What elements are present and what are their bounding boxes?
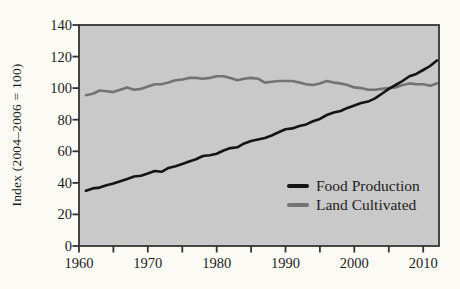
- y-tick-label: 140: [38, 16, 72, 34]
- legend-label-food-production: Food Production: [316, 177, 420, 195]
- x-tick-label: 1970: [124, 254, 172, 272]
- legend: Food Production Land Cultivated: [287, 176, 420, 214]
- y-tick-label: 0: [38, 237, 72, 255]
- x-tick-label: 2010: [399, 254, 447, 272]
- food-production-line-swatch: [287, 184, 309, 188]
- legend-item-land-cultivated: Land Cultivated: [287, 195, 420, 214]
- y-tick-label: 100: [38, 79, 72, 97]
- y-tick-label: 80: [38, 111, 72, 129]
- x-tick-label: 1990: [262, 254, 310, 272]
- legend-item-food-production: Food Production: [287, 176, 420, 195]
- line-chart-figure: Index (2004–2006 = 100) 0204060801001201…: [0, 0, 460, 289]
- y-tick-label: 20: [38, 205, 72, 223]
- y-tick-label: 40: [38, 174, 72, 192]
- x-tick-label: 2000: [330, 254, 378, 272]
- y-tick-label: 60: [38, 142, 72, 160]
- y-tick-label: 120: [38, 48, 72, 66]
- x-tick-label: 1960: [55, 254, 103, 272]
- land-cultivated-line-swatch: [287, 203, 309, 207]
- legend-label-land-cultivated: Land Cultivated: [316, 196, 416, 214]
- x-tick-label: 1980: [193, 254, 241, 272]
- y-axis-title: Index (2004–2006 = 100): [9, 63, 25, 206]
